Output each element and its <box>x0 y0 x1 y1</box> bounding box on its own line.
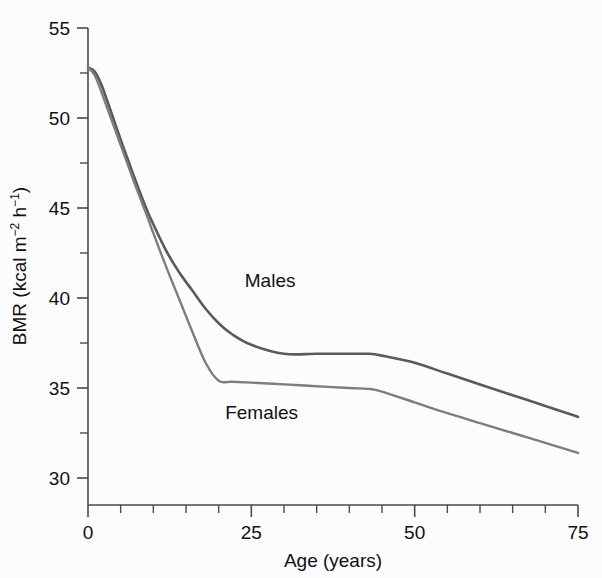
svg-text:BMR (kcal m−2 h−1): BMR (kcal m−2 h−1) <box>8 187 30 345</box>
y-tick-label: 30 <box>49 468 70 489</box>
x-tick-label: 0 <box>83 522 94 543</box>
x-tick-label: 50 <box>404 522 425 543</box>
y-axis-title-exponent-time: −1 <box>8 193 22 207</box>
x-tick-label: 25 <box>241 522 262 543</box>
plot-area-background <box>88 28 578 505</box>
y-axis-minor-ticks <box>80 73 88 433</box>
y-tick-label: 35 <box>49 378 70 399</box>
y-tick-label: 40 <box>49 288 70 309</box>
y-axis-title: BMR (kcal m−2 h−1) <box>8 187 30 345</box>
y-axis-title-prefix: BMR (kcal m <box>9 236 30 345</box>
y-axis-title-exponent-area: −2 <box>8 222 22 236</box>
y-tick-label: 45 <box>49 198 70 219</box>
x-axis-title: Age (years) <box>284 550 382 571</box>
x-axis-minor-ticks <box>121 505 546 513</box>
chart-canvas: 303540455055 0255075 MalesFemales Age (y… <box>0 0 602 578</box>
y-axis-tick-labels: 303540455055 <box>49 18 70 489</box>
y-axis-title-suffix: ) <box>9 187 30 193</box>
y-tick-label: 55 <box>49 18 70 39</box>
x-tick-label: 75 <box>567 522 588 543</box>
bmr-age-chart-figure: 303540455055 0255075 MalesFemales Age (y… <box>0 0 602 578</box>
series-label-males: Males <box>245 270 296 291</box>
y-tick-label: 50 <box>49 108 70 129</box>
series-label-females: Females <box>225 402 298 423</box>
y-axis-title-mid: h <box>9 207 30 223</box>
x-axis-tick-labels: 0255075 <box>83 522 589 543</box>
x-axis-major-ticks <box>88 505 578 517</box>
